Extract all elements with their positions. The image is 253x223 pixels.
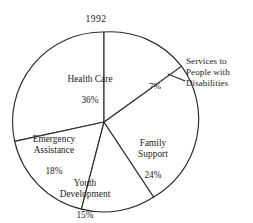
pie-chart-canvas <box>0 0 253 223</box>
pie-chart: 1992 Health Care 36% Emergency Assistanc… <box>0 0 253 223</box>
